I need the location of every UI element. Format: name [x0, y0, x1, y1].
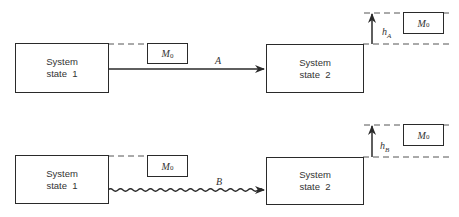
state-label-line1: System: [46, 56, 78, 68]
mass-raised-b: M0: [403, 124, 444, 146]
path-b-label: B: [216, 176, 222, 187]
state-label-line2: state 2: [299, 181, 330, 193]
mass-subscript: 0: [170, 164, 174, 172]
state-label-line2: state 2: [299, 69, 330, 81]
mass-subscript: 0: [426, 133, 430, 141]
system-state-2-box-a: System state 2: [266, 44, 364, 93]
mass-subscript: 0: [170, 52, 174, 60]
height-subscript: B: [385, 146, 389, 154]
mass-symbol: M: [418, 130, 426, 141]
height-subscript: A: [387, 32, 391, 40]
mass-initial-a: M0: [147, 43, 188, 64]
system-state-1-box-a: System state 1: [15, 43, 109, 93]
mass-symbol: M: [162, 161, 170, 172]
state-label-line1: System: [299, 57, 331, 69]
state-label-line2: state 1: [46, 180, 77, 192]
mass-symbol: M: [418, 18, 426, 29]
mass-subscript: 0: [426, 21, 430, 29]
state-label-line1: System: [299, 169, 331, 181]
mass-initial-b: M0: [147, 155, 188, 177]
path-a-label: A: [215, 55, 221, 66]
state-label-line2: state 1: [46, 68, 77, 80]
path-b-wavy-arrow: [108, 189, 264, 192]
system-state-1-box-b: System state 1: [15, 155, 109, 204]
state-label-line1: System: [46, 168, 78, 180]
mass-symbol: M: [162, 48, 170, 59]
system-state-2-box-b: System state 2: [266, 157, 364, 205]
mass-raised-a: M0: [403, 12, 444, 34]
height-label-b: hB: [380, 140, 389, 154]
height-label-a: hA: [382, 26, 391, 40]
